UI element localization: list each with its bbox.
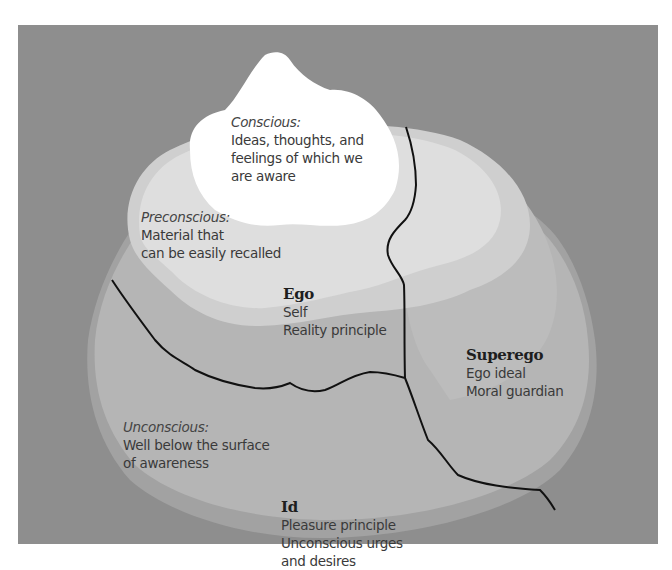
id-line-3: and desires xyxy=(281,552,403,570)
superego-line-2: Moral guardian xyxy=(466,382,563,400)
conscious-title: Conscious: xyxy=(231,113,364,131)
unconscious-line-1: Well below the surface xyxy=(123,436,270,454)
id-title: Id xyxy=(281,498,403,516)
preconscious-line-2: can be easily recalled xyxy=(141,244,281,262)
preconscious-title: Preconscious: xyxy=(141,208,281,226)
ego-title: Ego xyxy=(283,285,387,303)
unconscious-label: Unconscious: Well below the surface of a… xyxy=(123,418,270,472)
conscious-line-1: Ideas, thoughts, and xyxy=(231,131,364,149)
superego-label: Superego Ego ideal Moral guardian xyxy=(466,346,563,400)
unconscious-line-2: of awareness xyxy=(123,454,270,472)
superego-title: Superego xyxy=(466,346,563,364)
preconscious-line-1: Material that xyxy=(141,226,281,244)
conscious-label: Conscious: Ideas, thoughts, and feelings… xyxy=(231,113,364,185)
ego-line-1: Self xyxy=(283,303,387,321)
id-line-2: Unconscious urges xyxy=(281,534,403,552)
conscious-line-3: are aware xyxy=(231,167,364,185)
unconscious-title: Unconscious: xyxy=(123,418,270,436)
id-label: Id Pleasure principle Unconscious urges … xyxy=(281,498,403,570)
superego-line-1: Ego ideal xyxy=(466,364,563,382)
id-line-1: Pleasure principle xyxy=(281,516,403,534)
preconscious-label: Preconscious: Material that can be easil… xyxy=(141,208,281,262)
ego-label: Ego Self Reality principle xyxy=(283,285,387,339)
ego-line-2: Reality principle xyxy=(283,321,387,339)
conscious-line-2: feelings of which we xyxy=(231,149,364,167)
